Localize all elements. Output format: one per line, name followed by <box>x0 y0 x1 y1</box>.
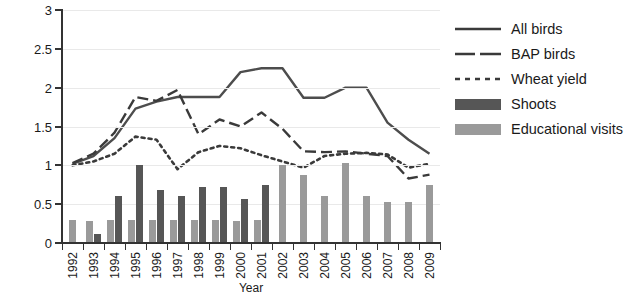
x-axis-tick-mark <box>377 244 378 250</box>
x-axis-tick-label: 1997 <box>172 252 184 279</box>
y-axis-tick-label: 0.5 <box>6 197 52 212</box>
gridline <box>62 10 440 11</box>
legend-label: Shoots <box>511 96 556 112</box>
bar-shoots <box>199 187 206 243</box>
x-axis-tick-label: 1992 <box>67 252 79 279</box>
bar-shoots <box>115 196 122 243</box>
x-axis-tick-mark <box>167 244 168 250</box>
bar-educational-visits <box>405 202 412 243</box>
x-axis-tick-label: 2006 <box>361 252 373 279</box>
legend-item-shoots: Shoots <box>455 91 633 116</box>
x-axis-tick-mark <box>272 244 273 250</box>
legend-key-line <box>455 47 501 61</box>
x-axis-tick-mark <box>398 244 399 250</box>
legend-swatch-shoots-icon <box>455 99 501 110</box>
bar-educational-visits <box>426 185 433 243</box>
legend-label: Wheat yield <box>511 71 587 87</box>
legend-key-line <box>455 72 501 86</box>
x-axis-tick-label: 2000 <box>235 252 247 279</box>
x-axis-tick-mark <box>314 244 315 250</box>
bar-educational-visits <box>279 165 286 243</box>
legend-key-swatch <box>455 122 501 136</box>
x-axis-tick-label: 2007 <box>382 252 394 279</box>
legend-label: Educational visits <box>511 121 623 137</box>
x-axis-tick-label: 1995 <box>130 252 142 279</box>
bar-educational-visits <box>233 221 240 243</box>
x-axis-tick-label: 1993 <box>88 252 100 279</box>
legend-line-line-solid-icon <box>455 22 501 36</box>
x-axis-tick-mark <box>356 244 357 250</box>
chart-legend: All birdsBAP birdsWheat yieldShootsEduca… <box>455 16 633 141</box>
bar-shoots <box>241 199 248 243</box>
bar-shoots <box>262 185 269 243</box>
legend-label: All birds <box>511 21 563 37</box>
x-axis-tick-mark <box>230 244 231 250</box>
x-axis-tick-mark <box>104 244 105 250</box>
x-axis-tick-mark <box>188 244 189 250</box>
bar-educational-visits <box>69 220 76 243</box>
y-axis-tick-label: 3 <box>6 3 52 18</box>
bar-educational-visits <box>363 196 370 243</box>
bar-educational-visits <box>128 220 135 243</box>
x-axis-tick-label: 2009 <box>424 252 436 279</box>
bar-educational-visits <box>384 202 391 243</box>
x-axis-tick-mark <box>62 244 63 250</box>
x-axis-tick-mark <box>146 244 147 250</box>
y-axis-tick-label: 2.5 <box>6 41 52 56</box>
x-axis-tick-mark <box>209 244 210 250</box>
x-axis-tick-label: 2001 <box>256 252 268 279</box>
legend-line-line-dashed-icon <box>455 47 501 61</box>
legend-item-wheat-yield: Wheat yield <box>455 66 633 91</box>
gridline <box>62 49 440 50</box>
line-wheat-yield <box>73 137 430 170</box>
x-axis-tick-mark <box>440 244 441 250</box>
legend-item-educational-visits: Educational visits <box>455 116 633 141</box>
legend-swatch-visits-icon <box>455 124 501 135</box>
x-axis-tick-label: 2005 <box>340 252 352 279</box>
legend-key-line <box>455 22 501 36</box>
bar-educational-visits <box>212 220 219 243</box>
y-axis-line <box>61 9 63 244</box>
bar-shoots <box>157 190 164 243</box>
bar-shoots <box>178 196 185 243</box>
bar-shoots <box>220 187 227 243</box>
legend-label: BAP birds <box>511 46 575 62</box>
bar-educational-visits <box>170 220 177 243</box>
x-axis-tick-mark <box>293 244 294 250</box>
x-axis-tick-label: 2003 <box>298 252 310 279</box>
bar-educational-visits <box>300 175 307 243</box>
legend-key-swatch <box>455 97 501 111</box>
gridline <box>62 165 440 166</box>
x-axis-tick-label: 1994 <box>109 252 121 279</box>
bar-educational-visits <box>149 220 156 243</box>
bar-shoots <box>136 165 143 243</box>
gridline <box>62 88 440 89</box>
y-axis-tick-label: 2 <box>6 80 52 95</box>
x-axis-tick-mark <box>335 244 336 250</box>
x-axis-tick-label: 1998 <box>193 252 205 279</box>
x-axis-tick-label: 1999 <box>214 252 226 279</box>
bar-educational-visits <box>107 220 114 243</box>
plot-area <box>62 10 440 243</box>
y-axis-tick-label: 1 <box>6 158 52 173</box>
x-axis-tick-label: 2004 <box>319 252 331 279</box>
bar-educational-visits <box>86 221 93 243</box>
y-axis-tick-label: 0 <box>6 236 52 251</box>
legend-line-line-dotted-icon <box>455 72 501 86</box>
gridline <box>62 127 440 128</box>
legend-item-bap-birds: BAP birds <box>455 41 633 66</box>
x-axis-tick-mark <box>83 244 84 250</box>
bar-educational-visits <box>254 220 261 243</box>
x-axis-tick-mark <box>125 244 126 250</box>
bar-educational-visits <box>191 220 198 243</box>
y-axis-tick-label: 1.5 <box>6 119 52 134</box>
chart-container: 00.511.522.53 19921993199419951996199719… <box>0 0 633 292</box>
legend-item-all-birds: All birds <box>455 16 633 41</box>
bar-educational-visits <box>321 196 328 243</box>
x-axis-title: Year <box>62 281 440 292</box>
x-axis-tick-mark <box>251 244 252 250</box>
x-axis-tick-mark <box>419 244 420 250</box>
x-axis-tick-label: 1996 <box>151 252 163 279</box>
bar-educational-visits <box>342 163 349 243</box>
x-axis-tick-label: 2008 <box>403 252 415 279</box>
